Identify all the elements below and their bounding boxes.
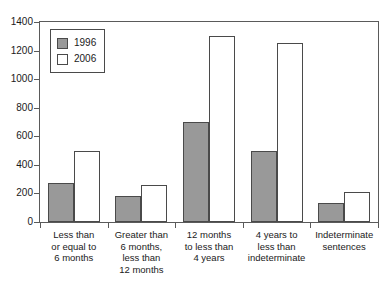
legend-swatch-1996 [57,38,68,49]
x-axis-category-label: Less thanor equal to6 months [40,229,108,281]
y-axis-tick-label: 800 [16,103,33,113]
bar-group [108,22,176,222]
bar-2006-4 [344,192,370,222]
bar-2006-0 [74,151,100,222]
bar-1996-2 [183,122,209,222]
y-axis-tick-label: 0 [27,217,33,227]
bar-2006-2 [209,36,235,222]
y-axis-tick-label: 400 [16,160,33,170]
x-axis-category-labels: Less thanor equal to6 monthsGreater than… [40,229,378,281]
bar-2006-3 [277,43,303,222]
x-axis-category-line: or equal to [41,241,107,253]
bar-2006-1 [141,185,167,222]
legend-swatch-2006 [57,54,68,65]
bar-1996-0 [48,183,74,222]
x-axis-category-label: 12 monthsto less than4 years [175,229,243,281]
legend: 1996 2006 [50,29,105,73]
x-axis-category-label: Greater than6 months,less than12 months [108,229,176,281]
x-axis-category-line: indeterminate [244,252,310,264]
legend-label-2006: 2006 [74,54,96,64]
x-axis-tick-mark [175,223,176,228]
y-axis-tick-label: 1000 [11,74,33,84]
legend-item-1996: 1996 [57,35,96,51]
x-axis-category-line: 12 months [176,229,242,241]
x-axis-category-line: 12 months [109,264,175,276]
x-axis-category-line: less than [109,252,175,264]
bar-1996-4 [318,203,344,222]
x-axis-tick-mark [40,223,41,228]
x-axis-category-line: sentences [311,241,377,253]
y-axis-tick-label: 1400 [11,17,33,27]
bar-1996-3 [251,151,277,222]
bar-group [243,22,311,222]
y-axis-tick-label: 1200 [11,46,33,56]
x-axis-tick-mark [243,223,244,228]
bar-1996-1 [115,196,141,222]
x-axis-category-label: 4 years toless thanindeterminate [243,229,311,281]
x-axis-category-line: 6 months, [109,241,175,253]
x-axis-tick-mark [378,223,379,228]
x-axis-category-line: 6 months [41,252,107,264]
x-axis-category-line: to less than [176,241,242,253]
x-axis-tick-marks [40,223,378,228]
y-axis-tick-labels: 1400120010008006004002000 [0,21,33,223]
x-axis-tick-mark [108,223,109,228]
x-axis-category-line: 4 years to [244,229,310,241]
x-axis-tick-mark [310,223,311,228]
y-axis-tick-label: 200 [16,188,33,198]
bar-group [175,22,243,222]
x-axis-category-line: Greater than [109,229,175,241]
bar-chart: 1400120010008006004002000 Less thanor eq… [0,0,388,281]
x-axis-category-line: less than [244,241,310,253]
bar-group [310,22,378,222]
x-axis-category-label: Indeterminatesentences [310,229,378,281]
y-axis-tick-label: 600 [16,131,33,141]
legend-label-1996: 1996 [74,38,96,48]
legend-item-2006: 2006 [57,51,96,67]
x-axis-category-line: 4 years [176,252,242,264]
x-axis-category-line: Less than [41,229,107,241]
x-axis-category-line: Indeterminate [311,229,377,241]
